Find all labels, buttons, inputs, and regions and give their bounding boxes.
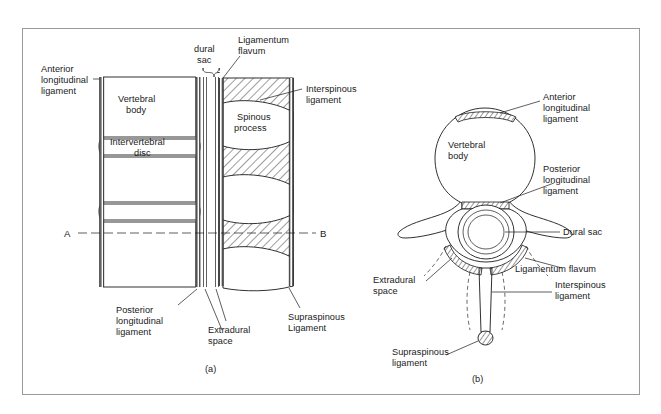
section-marker-a: A (64, 228, 71, 239)
label-extradural-space-line1: Extradural (208, 325, 250, 335)
label-supraspinous-ligament-line1: Supraspinous (288, 312, 345, 322)
vertebral-body-3 (103, 222, 196, 287)
vertebral-body-2 (103, 157, 196, 202)
label-posterior-longitudinal-ligament-line3: ligament (116, 327, 152, 337)
label-supraspinous-ligament-line2: Ligament (288, 323, 327, 333)
vertebral-body-column (99, 77, 200, 287)
figure-root: A B Anterior longitudinal ligame (0, 0, 661, 414)
label-b-extradural-space-line1: Extradural (373, 275, 415, 285)
label-b-interspinous-ligament-line2: ligament (555, 291, 591, 301)
label-b-interspinous-ligament-line1: Interspinous (555, 280, 606, 290)
label-intervertebral-disc-line1: Intervertebral (110, 137, 165, 147)
label-b-supraspinous-ligament-line2: ligament (392, 358, 428, 368)
label-b-posterior-longitudinal-ligament-line1: Posterior (543, 164, 580, 174)
label-ligamentum-flavum-line2: flavum (238, 46, 266, 56)
vertebral-body-1 (103, 77, 196, 137)
label-extradural-space-line2: space (208, 336, 233, 346)
label-posterior-longitudinal-ligament-line1: Posterior (116, 305, 153, 315)
label-b-dural-sac: Dural sac (563, 227, 603, 237)
section-marker-b: B (320, 228, 326, 239)
dural-sac-inner (468, 215, 504, 249)
label-dural-sac-line1: dural (194, 44, 215, 54)
panel-b-caption: (b) (472, 374, 483, 384)
label-intervertebral-disc-line2: disc (134, 148, 151, 158)
label-b-posterior-longitudinal-ligament-line2: longitudinal (543, 175, 590, 185)
label-b-extradural-space-line2: space (373, 286, 398, 296)
anatomical-figure: A B Anterior longitudinal ligame (0, 0, 661, 414)
ligamentum-flavum-band (219, 78, 223, 286)
spinous-process-2 (223, 175, 293, 224)
label-interspinous-ligament-line1: Interspinous (306, 84, 357, 94)
label-ligamentum-flavum-line1: Ligamentum (238, 35, 289, 45)
label-b-anterior-longitudinal-ligament-line2: longitudinal (543, 103, 590, 113)
posterior-longitudinal-ligament-band (196, 77, 200, 287)
label-vertebral-body-line2: body (126, 105, 146, 115)
label-interspinous-ligament-line2: ligament (306, 95, 342, 105)
spinous-process-3 (223, 247, 293, 291)
panel-a-caption: (a) (205, 364, 216, 374)
label-b-anterior-longitudinal-ligament-line3: ligament (543, 114, 579, 124)
label-anterior-longitudinal-ligament-line1: Anterior (41, 64, 74, 74)
supraspinous-ligament-knob (478, 331, 493, 345)
label-anterior-longitudinal-ligament-line3: ligament (41, 86, 77, 96)
label-b-vertebral-body-line2: body (448, 151, 468, 161)
spinous-process-column (219, 78, 294, 291)
label-dural-sac-line2: sac (197, 55, 212, 65)
label-b-anterior-longitudinal-ligament-line1: Anterior (543, 92, 576, 102)
label-anterior-longitudinal-ligament-line2: longitudinal (41, 75, 88, 85)
label-b-ligamentum-flavum: Ligamentum flavum (515, 264, 596, 274)
label-b-supraspinous-ligament-line1: Supraspinous (392, 347, 449, 357)
label-spinous-process-line2: process (234, 123, 267, 133)
label-b-vertebral-body-line1: Vertebral (448, 140, 485, 150)
label-b-posterior-longitudinal-ligament-line3: ligament (543, 186, 579, 196)
supraspinous-ligament-band (289, 78, 293, 286)
anterior-longitudinal-ligament-band (100, 77, 104, 287)
label-vertebral-body-line1: Vertebral (118, 94, 155, 104)
label-posterior-longitudinal-ligament-line2: longitudinal (116, 316, 163, 326)
label-spinous-process-line1: Spinous (237, 112, 271, 122)
intervertebral-disc-2 (99, 204, 200, 220)
